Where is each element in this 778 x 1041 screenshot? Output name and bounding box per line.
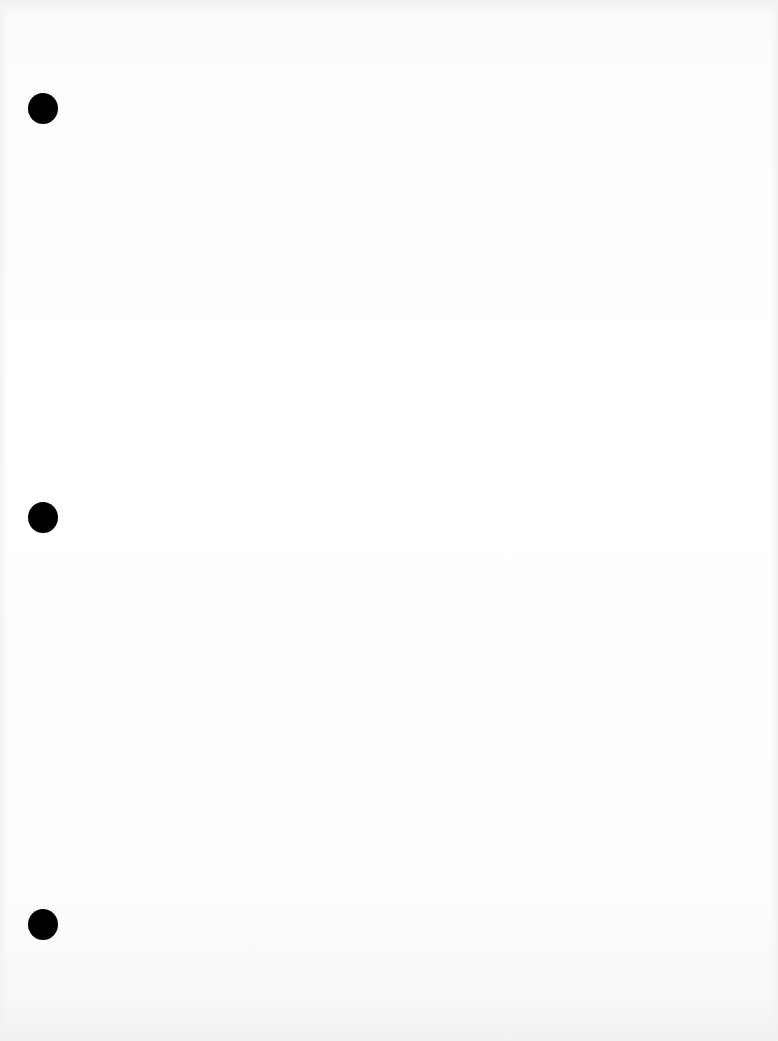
page-left-edge-shadow: [0, 0, 8, 1041]
punch-hole-middle: [28, 502, 58, 533]
punch-hole-top: [28, 93, 58, 124]
punch-hole-bottom: [28, 909, 58, 940]
blank-scanned-page: [0, 0, 778, 1041]
page-right-edge-shadow: [770, 0, 778, 1041]
